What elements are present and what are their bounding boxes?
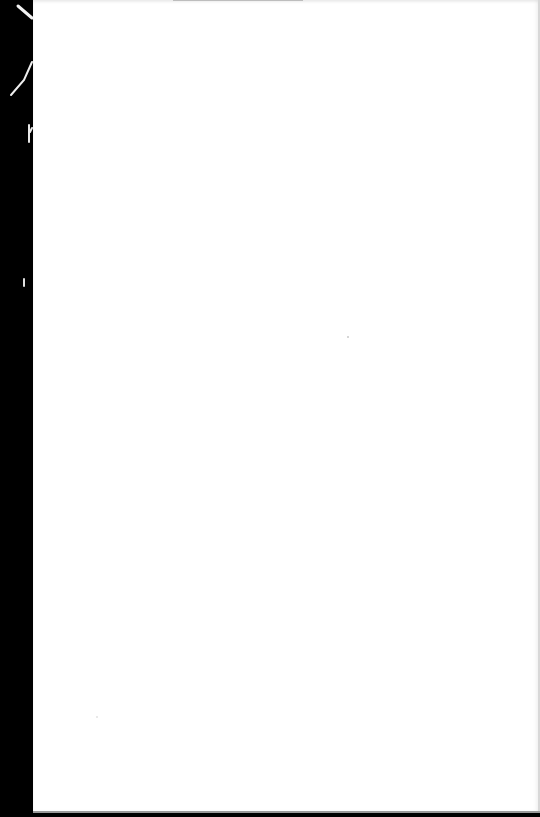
blank-page xyxy=(33,0,540,813)
scanned-page-image xyxy=(0,0,540,817)
page-bottom-edge xyxy=(33,811,540,813)
scan-speck xyxy=(347,336,349,338)
scan-speck xyxy=(96,716,98,718)
page-top-edge xyxy=(173,0,303,1)
